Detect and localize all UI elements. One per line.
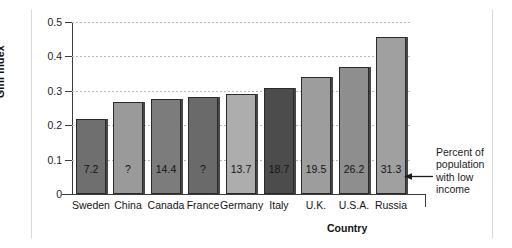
x-axis-title: Country <box>327 222 367 234</box>
category-label-germany: Germany <box>220 199 262 211</box>
y-axis-tick-label: 0.1 <box>36 154 62 166</box>
y-axis-tick <box>65 125 72 126</box>
bar-value-label: ? <box>114 163 142 175</box>
annotation-line: income <box>436 183 506 195</box>
bar-china: ? <box>113 102 143 194</box>
gini-index-bar-chart: Gini index Country 00.10.20.30.40.5 7.2?… <box>0 0 512 248</box>
x-axis-line <box>62 194 426 195</box>
y-axis-tick <box>65 91 72 92</box>
annotation-left-arrow-icon <box>404 172 434 181</box>
bar-uk: 19.5 <box>301 77 331 194</box>
bar-france: ? <box>188 97 218 194</box>
y-axis-tick <box>65 56 72 57</box>
bar-italy: 18.7 <box>264 88 294 194</box>
bar-russia: 31.3 <box>376 37 406 194</box>
category-label-china: China <box>107 199 149 211</box>
bar-value-label: 14.4 <box>152 163 180 175</box>
y-axis-tick <box>65 22 72 23</box>
bar-value-label: 19.5 <box>302 163 330 175</box>
y-axis-tick <box>65 160 72 161</box>
bar-value-label: 18.7 <box>265 163 293 175</box>
gridline <box>72 22 410 23</box>
y-axis-tick-label: 0.3 <box>36 85 62 97</box>
bar-sweden: 7.2 <box>76 119 106 194</box>
bar-value-label: 7.2 <box>77 163 105 175</box>
category-label-france: France <box>182 199 224 211</box>
bar-canada: 14.4 <box>151 99 181 194</box>
annotation-line: with low <box>436 171 506 183</box>
bar-value-label: 31.3 <box>377 163 405 175</box>
y-axis-tick-label: 0 <box>36 188 62 200</box>
bar-usa: 26.2 <box>339 67 369 194</box>
category-label-sweden: Sweden <box>70 199 112 211</box>
bar-germany: 13.7 <box>226 94 256 194</box>
y-axis-tick-label: 0.4 <box>36 50 62 62</box>
plot-area: 7.2?14.4?13.718.719.526.231.3 <box>72 22 410 194</box>
page-edge-rule-left <box>31 10 32 238</box>
page-edge-rule-right <box>492 10 493 238</box>
bar-value-label: 13.7 <box>227 163 255 175</box>
y-axis-title: Gini index <box>0 45 6 98</box>
y-axis-tick-label: 0.5 <box>36 16 62 28</box>
bar-value-label: 26.2 <box>340 163 368 175</box>
annotation-line: Percent of <box>436 146 506 158</box>
x-axis-right-cap <box>425 194 426 207</box>
category-label-usa: U.S.A. <box>333 199 375 211</box>
gridline <box>72 56 410 57</box>
y-axis-tick <box>65 194 72 195</box>
y-axis-tick-label: 0.2 <box>36 119 62 131</box>
category-label-canada: Canada <box>145 199 187 211</box>
category-label-uk: U.K. <box>295 199 337 211</box>
annotation-line: population <box>436 158 506 170</box>
category-label-italy: Italy <box>258 199 300 211</box>
bar-value-label: ? <box>189 163 217 175</box>
annotation-text: Percent ofpopulationwith lowincome <box>436 146 506 196</box>
category-label-russia: Russia <box>370 199 412 211</box>
